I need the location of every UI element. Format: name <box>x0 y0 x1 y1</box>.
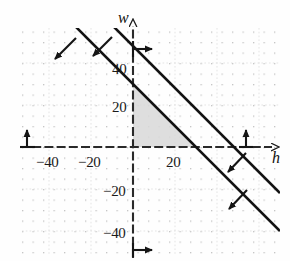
y-tick-label-40: 40 <box>112 62 126 77</box>
y-tick-label--40: −40 <box>103 226 126 241</box>
graph-figure: −40 −20 20 40 20 −20 −40 w h <box>0 0 290 261</box>
y-axis-label: w <box>118 10 129 26</box>
y-tick-label-20: 20 <box>112 100 126 115</box>
x-tick-label--20: −20 <box>78 155 101 170</box>
plot-canvas <box>0 0 290 261</box>
x-axis-label: h <box>272 150 280 166</box>
x-tick-label-20: 20 <box>166 155 180 170</box>
x-tick-label--40: −40 <box>36 155 59 170</box>
y-tick-label--20: −20 <box>103 184 126 199</box>
